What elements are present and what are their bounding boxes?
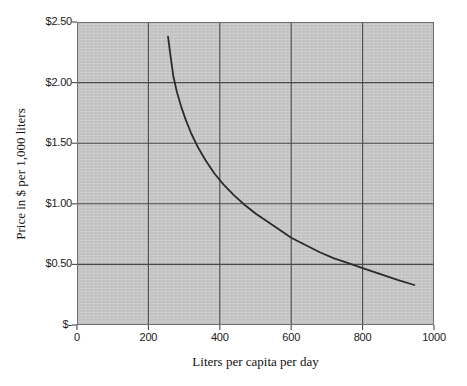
x-axis-tick-labels: 02004006008001000	[0, 0, 467, 386]
x-axis-tick-label: 0	[47, 332, 107, 343]
y-axis-title: Price in $ per 1,000 liters	[13, 108, 29, 239]
x-axis-tick-label: 800	[333, 332, 393, 343]
x-axis-tick-label: 200	[118, 332, 178, 343]
chart-figure: $-$0.50$1.00$1.50$2.00$2.50 020040060080…	[0, 0, 467, 386]
x-axis-tick-label: 600	[261, 332, 321, 343]
x-axis-tick-label: 400	[190, 332, 250, 343]
x-axis-title: Liters per capita per day	[77, 354, 434, 370]
y-axis-title-container: Price in $ per 1,000 liters	[10, 22, 32, 325]
x-axis-tick-label: 1000	[404, 332, 464, 343]
